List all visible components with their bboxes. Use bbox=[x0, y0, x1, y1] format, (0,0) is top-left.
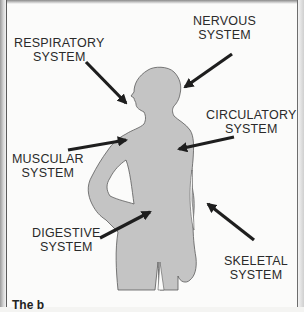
label-digestive-line2: SYSTEM bbox=[32, 240, 100, 254]
arrow-skeletal bbox=[208, 204, 254, 240]
label-respiratory-line1: RESPIRATORY bbox=[14, 36, 104, 50]
arrow-respiratory bbox=[86, 62, 126, 103]
label-nervous-line1: NERVOUS bbox=[193, 14, 256, 28]
label-nervous-system: NERVOUS SYSTEM bbox=[193, 14, 256, 42]
label-circulatory-line1: CIRCULATORY bbox=[206, 108, 296, 122]
label-skeletal-line1: SKELETAL bbox=[224, 254, 288, 268]
label-skeletal-system: SKELETAL SYSTEM bbox=[224, 254, 288, 282]
label-respiratory-line2: SYSTEM bbox=[14, 50, 104, 64]
label-circulatory-system: CIRCULATORY SYSTEM bbox=[206, 108, 296, 136]
label-muscular-line1: MUSCULAR bbox=[12, 152, 84, 166]
label-digestive-line1: DIGESTIVE bbox=[32, 226, 100, 240]
label-digestive-system: DIGESTIVE SYSTEM bbox=[32, 226, 100, 254]
label-nervous-line2: SYSTEM bbox=[193, 28, 256, 42]
label-muscular-system: MUSCULAR SYSTEM bbox=[12, 152, 84, 180]
label-circulatory-line2: SYSTEM bbox=[206, 122, 296, 136]
label-muscular-line2: SYSTEM bbox=[12, 166, 84, 180]
label-skeletal-line2: SYSTEM bbox=[224, 268, 288, 282]
label-respiratory-system: RESPIRATORY SYSTEM bbox=[14, 36, 104, 64]
caption-text-truncated: The b bbox=[12, 298, 44, 312]
arrow-nervous bbox=[185, 54, 232, 87]
human-silhouette bbox=[88, 67, 196, 290]
